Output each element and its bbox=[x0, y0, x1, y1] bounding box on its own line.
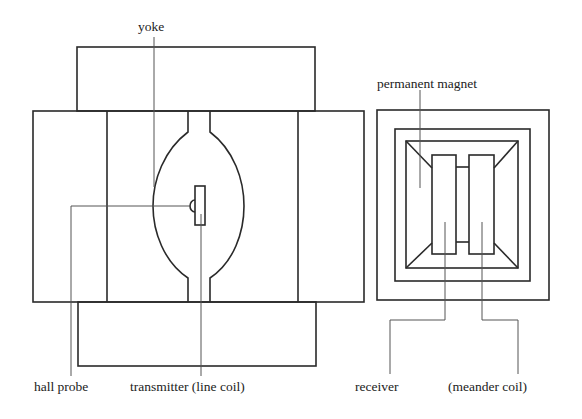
diagonal-tr bbox=[494, 141, 518, 168]
receiver-leader bbox=[390, 222, 445, 374]
receiver-coil bbox=[432, 155, 456, 254]
label-hall-probe: hall probe bbox=[34, 379, 88, 394]
meander-coil-leader bbox=[482, 222, 518, 374]
outer-frame bbox=[377, 110, 549, 300]
bottom-yoke bbox=[78, 302, 316, 366]
diagonal-bl bbox=[406, 243, 432, 268]
label-meander-coil: (meander coil) bbox=[448, 379, 527, 394]
diagonal-tl bbox=[406, 141, 432, 168]
diagram-svg: yoke permanent magnet hall probe transmi… bbox=[0, 0, 582, 419]
label-receiver: receiver bbox=[355, 379, 399, 394]
hall-probe-leader bbox=[71, 206, 190, 376]
diagram-canvas: yoke permanent magnet hall probe transmi… bbox=[0, 0, 582, 419]
label-transmitter: transmitter (line coil) bbox=[130, 379, 245, 394]
top-view bbox=[377, 90, 549, 374]
diagonal-br bbox=[494, 243, 518, 268]
label-permanent-magnet: permanent magnet bbox=[377, 76, 477, 91]
transmitter-coil bbox=[195, 186, 205, 225]
side-view bbox=[33, 37, 364, 376]
top-yoke bbox=[77, 47, 315, 111]
label-yoke: yoke bbox=[138, 19, 164, 34]
